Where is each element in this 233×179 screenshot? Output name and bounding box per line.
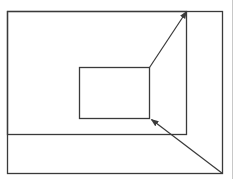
arrow-inner-top-right-to-middle-top-right <box>150 12 187 68</box>
inner-rect <box>80 68 150 119</box>
middle-rect <box>8 12 187 135</box>
diagram-canvas <box>0 0 233 179</box>
